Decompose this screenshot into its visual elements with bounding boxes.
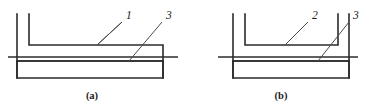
subfigure-b-leader-line-3 <box>318 22 349 61</box>
subfigure-a-base-box <box>17 61 163 78</box>
subfigure-b-leader-line-2 <box>285 22 308 45</box>
subfigure-b-callout-label-2: 2 <box>312 9 318 21</box>
subfigure-a-callout-label-3: 3 <box>165 9 172 21</box>
subfigure-b-base-box <box>233 61 349 78</box>
subfigure-b-caption: (b) <box>275 90 288 102</box>
subfigure-a: 1 3 (a) <box>8 9 178 102</box>
subfigure-a-leader-line-3 <box>129 22 162 61</box>
subfigure-b-callout-label-3: 3 <box>352 9 359 21</box>
figure-container: 1 3 (a) 2 3 (b) <box>0 0 375 107</box>
subfigure-a-caption: (a) <box>86 90 99 102</box>
subfigure-a-inner-profile <box>29 14 163 78</box>
subfigure-a-callout-label-1: 1 <box>126 9 132 21</box>
diagram-canvas: 1 3 (a) 2 3 (b) <box>0 0 375 107</box>
subfigure-b: 2 3 (b) <box>218 9 359 102</box>
subfigure-a-leader-line-1-geom <box>97 22 122 45</box>
subfigure-b-inner-profile <box>245 14 338 45</box>
